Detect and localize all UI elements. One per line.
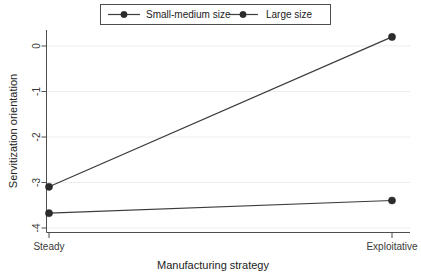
x-axis-title: Manufacturing strategy	[157, 259, 269, 271]
data-point-large-steady	[45, 183, 52, 190]
series-large-size-line	[49, 37, 392, 187]
y-tick-label-0: 0	[31, 43, 42, 49]
x-axis: Steady Exploitative Manufacturing strate…	[33, 233, 418, 272]
y-tick-label-minus1: -1	[31, 87, 42, 96]
series-large-size	[45, 33, 395, 190]
y-axis: 0 -1 -2 -3 -4 Servitization orientation	[7, 30, 47, 233]
y-axis-title: Servitization orientation	[7, 74, 19, 188]
series-small-medium-size-line	[49, 201, 392, 214]
x-tick-label-steady: Steady	[33, 241, 64, 252]
series-small-medium-size	[45, 197, 395, 217]
y-tick-label-minus4: -4	[31, 223, 42, 232]
legend-label-small-medium-size: Small-medium size	[146, 9, 231, 20]
data-point-small-medium-steady	[45, 210, 52, 217]
legend-label-large-size: Large size	[266, 9, 313, 20]
legend-marker-small-medium-size	[121, 11, 127, 17]
line-chart-canvas: 0 -1 -2 -3 -4 Servitization orientation …	[0, 0, 421, 276]
legend-marker-large-size	[240, 11, 246, 17]
y-tick-label-minus2: -2	[31, 132, 42, 141]
data-point-small-medium-exploitative	[388, 197, 395, 204]
chart-legend: Small-medium size Large size	[101, 5, 331, 25]
gridlines	[47, 46, 410, 228]
x-tick-label-exploitative: Exploitative	[366, 241, 418, 252]
data-point-large-exploitative	[388, 33, 395, 40]
chart-figure: 0 -1 -2 -3 -4 Servitization orientation …	[0, 0, 421, 276]
y-tick-label-minus3: -3	[31, 178, 42, 187]
